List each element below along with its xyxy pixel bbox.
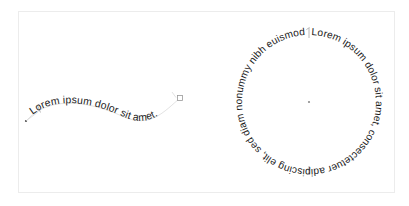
- canvas-svg[interactable]: Lorem ipsum dolor sit amet. Lorem ipsum …: [0, 0, 409, 206]
- canvas-root[interactable]: Lorem ipsum dolor sit amet. Lorem ipsum …: [0, 0, 409, 206]
- circle-center-dot[interactable]: [308, 101, 310, 103]
- curve-end-handle[interactable]: [178, 96, 183, 101]
